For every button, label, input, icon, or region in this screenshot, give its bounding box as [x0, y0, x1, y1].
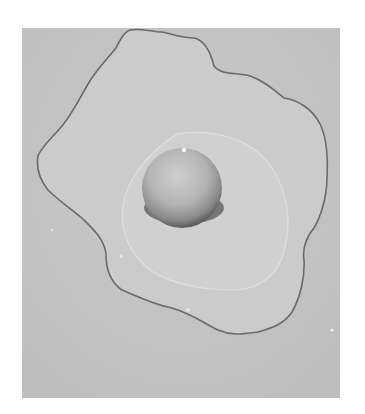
egg-yolk — [142, 148, 222, 228]
speck — [186, 308, 190, 312]
fried-egg-illustration — [22, 28, 340, 398]
yolk-highlight — [182, 148, 186, 152]
speck — [120, 255, 123, 258]
fried-egg-photo — [22, 28, 340, 398]
speck — [51, 229, 53, 231]
speck — [331, 329, 334, 332]
